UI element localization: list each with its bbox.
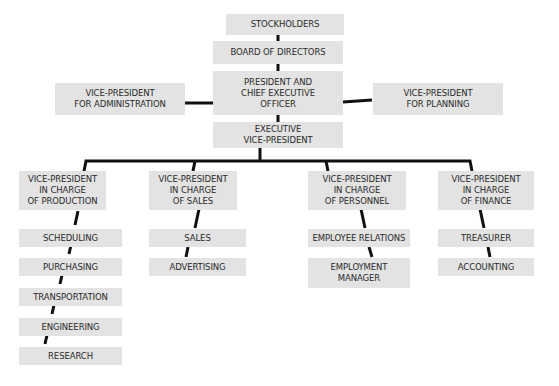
connector-purchasing-transportation: [60, 275, 62, 284]
box-label: STOCKHOLDERS: [251, 19, 320, 30]
box-label: VICE-PRESIDENT: [158, 174, 227, 185]
box-label: ENGINEERING: [41, 322, 99, 333]
box-label: TREASURER: [461, 233, 511, 244]
box-label: EXECUTIVE: [255, 124, 302, 135]
box-label: TRANSPORTATION: [33, 292, 107, 303]
box-label: IN CHARGE: [170, 185, 217, 196]
connector-treasurer-accounting: [488, 247, 490, 257]
box-accounting: ACCOUNTING: [438, 258, 534, 276]
box-label: MANAGER: [338, 273, 380, 284]
box-label: ADVERTISING: [169, 262, 225, 273]
box-label: IN CHARGE: [334, 185, 381, 196]
box-label: BOARD OF DIRECTORS: [230, 47, 325, 58]
box-treasurer: TREASURER: [438, 229, 534, 247]
box-president-ceo: PRESIDENT AND CHIEF EXECUTIVE OFFICER: [213, 71, 343, 115]
box-vp-sales: VICE-PRESIDENT IN CHARGE OF SALES: [149, 171, 237, 210]
box-label: CHIEF EXECUTIVE: [241, 88, 315, 99]
connector-engineering-research: [45, 335, 47, 344]
box-label: FOR PLANNING: [406, 99, 469, 110]
box-vp-production: VICE-PRESIDENT IN CHARGE OF PRODUCTION: [19, 171, 106, 210]
box-vp-personnel: VICE-PRESIDENT IN CHARGE OF PERSONNEL: [308, 171, 406, 210]
box-sales: SALES: [149, 229, 246, 247]
box-transportation: TRANSPORTATION: [19, 288, 122, 306]
box-label: SCHEDULING: [43, 233, 98, 244]
box-label: SALES: [184, 233, 210, 244]
box-vp-finance: VICE-PRESIDENT IN CHARGE OF FINANCE: [438, 171, 534, 210]
box-label: OF PERSONNEL: [325, 196, 389, 207]
box-scheduling: SCHEDULING: [19, 229, 122, 247]
box-vp-planning: VICE-PRESIDENT FOR PLANNING: [373, 83, 503, 115]
box-label: PURCHASING: [43, 262, 98, 273]
box-label: OF PRODUCTION: [27, 196, 97, 207]
connector-bus: [84, 161, 472, 171]
connector-vpsales-sales: [195, 209, 199, 228]
box-board-of-directors: BOARD OF DIRECTORS: [213, 41, 343, 64]
connector-vpfinance-treasurer: [480, 209, 484, 228]
connector-president-planning: [343, 100, 372, 102]
box-research: RESEARCH: [19, 347, 122, 365]
box-label: VICE-PRESIDENT: [28, 174, 97, 185]
box-label: EMPLOYEE RELATIONS: [313, 233, 406, 244]
box-label: OF SALES: [173, 196, 213, 207]
connector-production-scheduling: [75, 211, 78, 225]
box-vp-administration: VICE-PRESIDENT FOR ADMINISTRATION: [55, 83, 185, 115]
box-label: FOR ADMINISTRATION: [74, 99, 166, 110]
box-employment-manager: EMPLOYMENT MANAGER: [308, 258, 410, 288]
connector-transportation-engineering: [52, 305, 54, 314]
box-purchasing: PURCHASING: [19, 258, 122, 276]
box-label: VICE-PRESIDENT: [322, 174, 391, 185]
connector-employee-employment: [369, 247, 372, 257]
box-label: VICE-PRESIDENT: [85, 88, 154, 99]
box-label: EMPLOYMENT: [331, 262, 388, 273]
box-label: PRESIDENT AND: [244, 77, 312, 88]
box-label: VICE-PRESIDENT: [403, 88, 472, 99]
box-engineering: ENGINEERING: [19, 318, 122, 336]
box-executive-vp: EXECUTIVE VICE-PRESIDENT: [213, 122, 343, 148]
box-label: VICE-PRESIDENT: [243, 135, 312, 146]
box-label: OFFICER: [260, 99, 296, 110]
box-label: ACCOUNTING: [458, 262, 514, 273]
box-label: VICE-PRESIDENT: [451, 174, 520, 185]
box-stockholders: STOCKHOLDERS: [226, 14, 344, 35]
connector-sales-advertising: [186, 247, 188, 257]
box-label: IN CHARGE: [39, 185, 86, 196]
box-label: OF FINANCE: [461, 196, 512, 207]
connector-vppersonnel-employee: [361, 209, 365, 228]
box-label: RESEARCH: [48, 351, 93, 362]
connector-bus-sales: [193, 161, 195, 171]
box-employee-relations: EMPLOYEE RELATIONS: [308, 229, 410, 247]
box-advertising: ADVERTISING: [149, 258, 246, 276]
connector-bus-personnel: [326, 161, 328, 171]
box-label: IN CHARGE: [463, 185, 510, 196]
